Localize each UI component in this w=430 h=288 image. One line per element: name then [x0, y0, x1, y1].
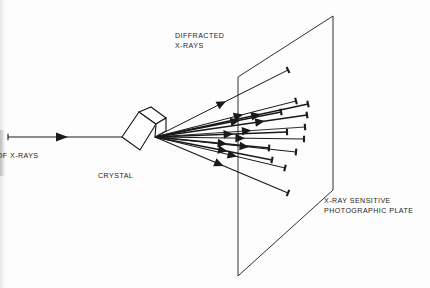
label-crystal: CRYSTAL: [98, 172, 133, 182]
label-beam-of-xrays: M OF X-RAYS: [0, 152, 39, 162]
ray-arrowhead: [255, 118, 265, 127]
diffracted-ray-group: [155, 67, 309, 196]
ray-arrowhead: [235, 134, 245, 143]
ray-arrowhead: [223, 130, 233, 139]
incident-beam-arrowhead: [56, 133, 68, 142]
ray-impact-tick: [271, 157, 272, 163]
ray-impact-tick: [287, 190, 290, 196]
label-photographic-plate: X-RAY SENSITIVE PHOTOGRAPHIC PLATE: [324, 197, 413, 216]
ray-impact-tick: [296, 149, 297, 156]
crystal-shape: [122, 107, 166, 150]
ray-1: [155, 67, 289, 137]
ray-impact-tick: [269, 145, 270, 152]
ray-impact-tick: [307, 101, 308, 107]
ray-arrowhead: [217, 139, 227, 148]
ray-impact-tick: [307, 112, 308, 119]
xray-diffraction-figure: DIFFRACTED X-RAYS CRYSTAL M OF X-RAYS X-…: [0, 0, 430, 288]
label-diffracted-xrays: DIFFRACTED X-RAYS: [175, 32, 224, 51]
incident-beam: [8, 133, 122, 142]
ray-impact-tick: [280, 109, 281, 115]
ray-line: [155, 137, 272, 160]
ray-impact-tick: [287, 67, 290, 73]
ray-impact-tick: [284, 165, 286, 171]
ray-line: [155, 137, 296, 152]
ray-impact-tick: [295, 98, 297, 104]
